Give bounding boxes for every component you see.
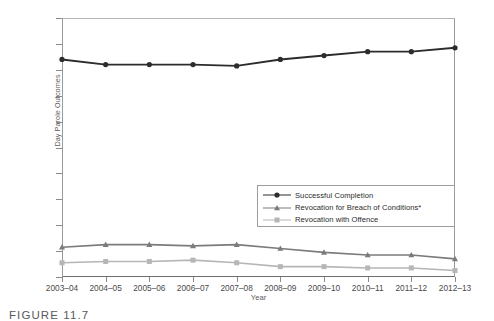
series-layer <box>0 0 494 300</box>
data-point-marker <box>409 49 414 54</box>
data-point-marker <box>322 264 327 269</box>
legend-swatch-square-icon <box>263 214 291 226</box>
data-point-marker <box>59 57 64 62</box>
legend-item[interactable]: Revocation for Breach of Conditions* <box>263 201 449 213</box>
chart-legend: Successful CompletionRevocation for Brea… <box>257 185 455 227</box>
data-point-marker <box>278 264 283 269</box>
data-point-marker <box>234 260 239 265</box>
line-chart: Day Parole Outcomes 0%10%20%30%40%50%60%… <box>0 0 494 300</box>
data-point-marker <box>147 62 152 67</box>
data-point-marker <box>275 217 280 222</box>
data-point-marker <box>190 62 195 67</box>
legend-swatch-triangle-icon <box>263 202 291 214</box>
data-point-marker <box>191 258 196 263</box>
legend-label: Revocation for Breach of Conditions* <box>295 203 421 212</box>
data-point-marker <box>103 259 108 264</box>
legend-item[interactable]: Revocation with Offence <box>263 214 449 226</box>
series-line <box>62 48 455 66</box>
figure-caption: FIGURE 11.7 <box>9 309 89 321</box>
data-point-marker <box>409 265 414 270</box>
figure-page: Day Parole Outcomes 0%10%20%30%40%50%60%… <box>0 0 494 321</box>
series-3 <box>60 258 458 273</box>
data-point-marker <box>278 57 283 62</box>
legend-item[interactable]: Successful Completion <box>263 189 449 201</box>
data-point-marker <box>321 53 326 58</box>
legend-label: Revocation with Offence <box>295 215 378 224</box>
data-point-marker <box>234 63 239 68</box>
series-line <box>62 260 455 270</box>
series-line <box>62 245 455 259</box>
data-point-marker <box>365 49 370 54</box>
legend-label: Successful Completion <box>295 191 373 200</box>
data-point-marker <box>60 260 65 265</box>
data-point-marker <box>452 45 457 50</box>
data-point-marker <box>274 204 280 209</box>
data-point-marker <box>453 268 458 273</box>
series-1 <box>59 45 457 68</box>
series-2 <box>59 242 458 262</box>
legend-swatch-circle-icon <box>263 189 291 201</box>
data-point-marker <box>274 193 279 198</box>
data-point-marker <box>365 265 370 270</box>
data-point-marker <box>103 62 108 67</box>
data-point-marker <box>147 259 152 264</box>
